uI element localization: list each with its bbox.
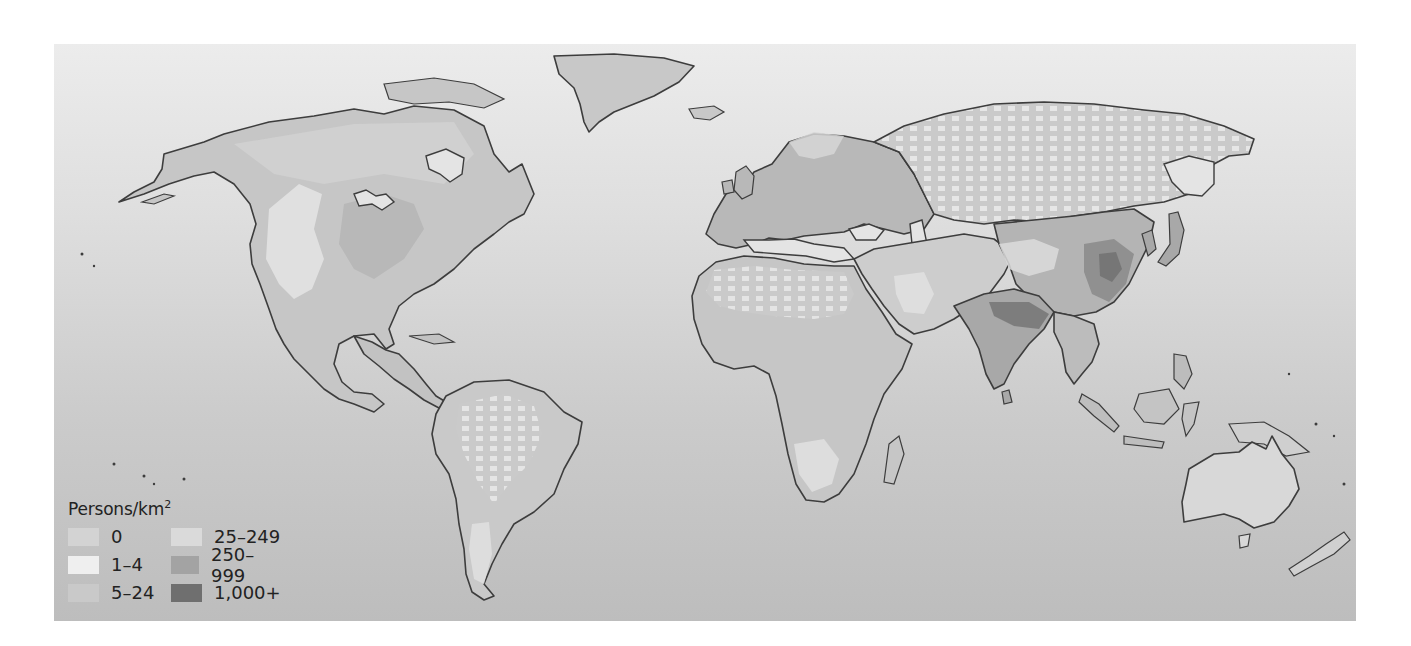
great-britain — [734, 166, 754, 199]
population-density-map: Persons/km2 0 1–4 5–24 25–249 250–999 — [54, 44, 1356, 621]
legend-swatch — [68, 584, 99, 602]
greenland — [554, 54, 694, 132]
legend-swatch — [171, 584, 202, 602]
cuba — [409, 334, 454, 344]
sulawesi — [1182, 402, 1199, 436]
aleutian-islands — [142, 194, 174, 204]
legend-label: 1–4 — [111, 554, 143, 575]
legend-item-0: 0 — [68, 523, 171, 551]
new-zealand — [1289, 532, 1350, 576]
iceland — [689, 106, 724, 120]
southeast-asia — [1054, 312, 1099, 384]
legend-swatch — [171, 528, 202, 546]
tasmania — [1239, 534, 1250, 548]
sumatra — [1079, 394, 1119, 432]
legend-item-1-4: 1–4 — [68, 551, 171, 579]
legend-swatch — [68, 556, 99, 574]
legend-title: Persons/km2 — [68, 498, 281, 519]
legend-swatch — [171, 556, 199, 574]
legend-item-1000-plus: 1,000+ — [171, 579, 281, 607]
sri-lanka — [1002, 390, 1012, 404]
japan — [1158, 212, 1184, 266]
legend-label: 0 — [111, 526, 122, 547]
madagascar — [884, 436, 904, 484]
legend-swatch — [68, 528, 99, 546]
legend-label: 1,000+ — [214, 582, 281, 603]
philippines — [1174, 354, 1192, 389]
legend-entries: 0 1–4 5–24 25–249 250–999 1,000+ — [68, 523, 281, 607]
ireland — [722, 180, 734, 194]
canadian-arctic-islands — [384, 78, 504, 108]
borneo — [1134, 389, 1179, 424]
legend-item-250-999: 250–999 — [171, 551, 281, 579]
legend-label: 5–24 — [111, 582, 154, 603]
legend-item-5-24: 5–24 — [68, 579, 171, 607]
legend: Persons/km2 0 1–4 5–24 25–249 250–999 — [68, 498, 281, 607]
java — [1124, 436, 1164, 448]
